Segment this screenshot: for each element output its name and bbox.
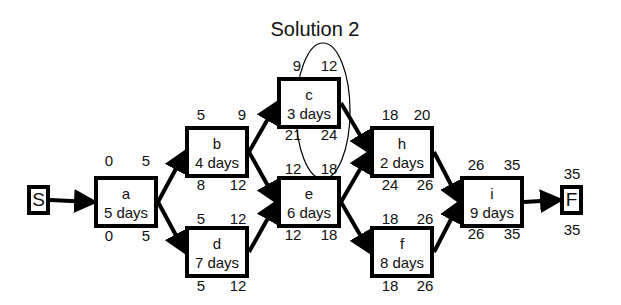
task-node-a: a 5 days bbox=[94, 176, 158, 228]
task-node-c: c 3 days bbox=[277, 77, 341, 129]
edge-e-to-h bbox=[341, 154, 369, 202]
edge-c-to-h bbox=[341, 103, 369, 150]
task-duration: 7 days bbox=[189, 253, 245, 272]
task-name: c bbox=[281, 85, 337, 104]
task-b-late-start: 8 bbox=[186, 177, 216, 193]
task-a-early-finish: 5 bbox=[131, 153, 161, 169]
task-e-late-start: 12 bbox=[278, 227, 308, 243]
task-name: d bbox=[189, 234, 245, 253]
task-duration: 5 days bbox=[98, 203, 154, 222]
task-node-h: h 2 days bbox=[370, 126, 434, 178]
task-i-late-finish: 35 bbox=[497, 226, 527, 242]
task-name: e bbox=[281, 184, 337, 203]
task-h-late-finish: 26 bbox=[410, 177, 440, 193]
task-e-late-finish: 18 bbox=[314, 227, 344, 243]
task-duration: 8 days bbox=[374, 253, 430, 272]
edge-b-to-e bbox=[249, 152, 276, 200]
task-b-early-start: 5 bbox=[186, 107, 216, 123]
task-d-early-finish: 12 bbox=[223, 211, 253, 227]
task-node-d: d 7 days bbox=[185, 226, 249, 278]
task-d-early-start: 5 bbox=[186, 211, 216, 227]
task-i-early-start: 26 bbox=[461, 157, 491, 173]
edge-e-to-f bbox=[341, 202, 369, 250]
task-i-early-finish: 35 bbox=[497, 157, 527, 173]
task-f-late-start: 18 bbox=[375, 278, 405, 294]
diagram-title: Solution 2 bbox=[250, 18, 380, 41]
task-a-late-finish: 5 bbox=[131, 228, 161, 244]
task-i-late-start: 26 bbox=[461, 226, 491, 242]
task-duration: 9 days bbox=[464, 203, 520, 222]
task-a-early-start: 0 bbox=[94, 153, 124, 169]
task-node-e: e 6 days bbox=[277, 176, 341, 228]
task-f-late-finish: 26 bbox=[410, 278, 440, 294]
finish-bottom-value: 35 bbox=[557, 222, 587, 238]
task-d-late-finish: 12 bbox=[223, 278, 253, 294]
task-node-b: b 4 days bbox=[185, 126, 249, 178]
task-name: f bbox=[374, 234, 430, 253]
start-node: S bbox=[27, 185, 50, 215]
task-name: i bbox=[464, 184, 520, 203]
start-label: S bbox=[32, 189, 45, 210]
task-c-early-finish: 12 bbox=[314, 58, 344, 74]
task-node-i: i 9 days bbox=[460, 176, 524, 228]
task-duration: 4 days bbox=[189, 153, 245, 172]
task-c-late-start: 21 bbox=[278, 127, 308, 143]
edge-S-to-a bbox=[50, 200, 92, 202]
edge-i-to-F bbox=[524, 200, 558, 202]
edge-d-to-e bbox=[249, 204, 276, 252]
task-a-late-start: 0 bbox=[94, 228, 124, 244]
task-duration: 6 days bbox=[281, 203, 337, 222]
task-h-early-finish: 20 bbox=[407, 107, 437, 123]
task-f-early-finish: 26 bbox=[410, 211, 440, 227]
edge-a-to-d bbox=[158, 202, 184, 250]
task-b-late-finish: 12 bbox=[223, 177, 253, 193]
task-c-late-finish: 24 bbox=[314, 127, 344, 143]
task-d-late-start: 5 bbox=[186, 278, 216, 294]
task-b-early-finish: 9 bbox=[227, 107, 257, 123]
task-e-early-finish: 18 bbox=[314, 161, 344, 177]
finish-top-value: 35 bbox=[557, 166, 587, 182]
finish-label: F bbox=[566, 189, 578, 210]
edge-a-to-b bbox=[158, 154, 184, 202]
task-h-late-start: 24 bbox=[375, 177, 405, 193]
task-name: h bbox=[374, 134, 430, 153]
task-duration: 3 days bbox=[281, 104, 337, 123]
task-name: b bbox=[189, 134, 245, 153]
task-c-early-start: 9 bbox=[282, 58, 312, 74]
task-name: a bbox=[98, 184, 154, 203]
finish-node: F bbox=[560, 185, 583, 215]
task-e-early-start: 12 bbox=[278, 161, 308, 177]
task-h-early-start: 18 bbox=[375, 107, 405, 123]
task-duration: 2 days bbox=[374, 153, 430, 172]
task-node-f: f 8 days bbox=[370, 226, 434, 278]
task-f-early-start: 18 bbox=[375, 211, 405, 227]
